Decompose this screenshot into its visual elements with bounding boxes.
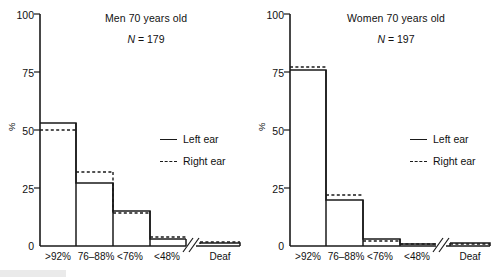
- legend-entry-left-ear: Left ear: [160, 133, 219, 145]
- x-tick-label-3: <48%: [395, 252, 439, 262]
- legend-entry-right-ear: Right ear: [410, 155, 476, 167]
- axis-break-slash-2: [189, 238, 199, 252]
- series-right-ear-men: [40, 130, 240, 242]
- legend-label-right-ear: Right ear: [433, 155, 476, 167]
- legend-solid-line-icon: [160, 139, 177, 140]
- axis-break-slash-1: [433, 238, 443, 252]
- legend-dashed-line-icon: [410, 161, 427, 162]
- x-tick-label-4: Deaf: [198, 252, 242, 262]
- legend-dashed-line-icon: [160, 161, 177, 162]
- panel-women: Women 70 years old N = 197 % 100 75 50 2…: [250, 0, 500, 277]
- legend-label-left-ear: Left ear: [183, 133, 219, 145]
- legend-entry-right-ear: Right ear: [160, 155, 226, 167]
- axis-break-slash-2: [439, 238, 449, 252]
- legend-label-right-ear: Right ear: [183, 155, 226, 167]
- legend-label-left-ear: Left ear: [433, 133, 469, 145]
- legend-entry-left-ear: Left ear: [410, 133, 469, 145]
- axis-break-slash-1: [183, 238, 193, 252]
- legend-solid-line-icon: [410, 139, 427, 140]
- panel-men: Men 70 years old N = 179 % 100 75 50 25 …: [0, 0, 250, 277]
- x-tick-label-4: Deaf: [448, 252, 492, 262]
- page-scan-artifact: [0, 270, 66, 277]
- x-tick-label-3: <48%: [145, 252, 189, 262]
- figure-two-panel-hearing-histogram: Men 70 years old N = 179 % 100 75 50 25 …: [0, 0, 500, 277]
